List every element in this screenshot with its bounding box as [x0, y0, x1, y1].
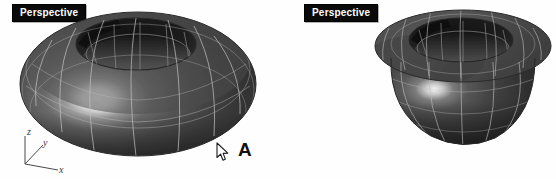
gizmo-label-y-left: y [42, 137, 48, 148]
screenshot-stage: Perspective [0, 0, 556, 179]
viewport-left[interactable]: Perspective [0, 0, 278, 179]
viewport-title-right[interactable]: Perspective [304, 4, 378, 22]
annotation-label-a: A [238, 140, 252, 159]
self-intersecting-torus-surface-right[interactable] [373, 6, 553, 156]
viewport-right[interactable]: Perspective [278, 0, 556, 179]
gizmo-label-x-left: x [58, 164, 64, 174]
axis-gizmo-left: z y x [16, 126, 68, 174]
gizmo-label-z-left: z [26, 126, 31, 137]
arrow-cursor [216, 142, 230, 162]
